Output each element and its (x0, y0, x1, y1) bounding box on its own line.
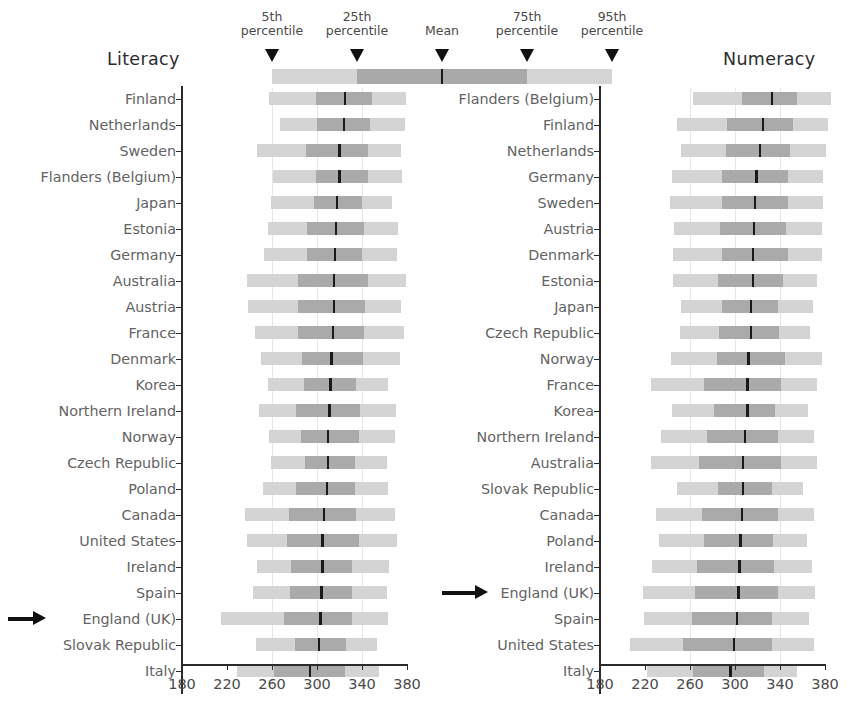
category-label: Finland (543, 118, 594, 132)
category-label: Austria (125, 300, 176, 314)
bar-mean-line (344, 92, 346, 105)
category-label: Japan (136, 196, 176, 210)
category-label: Ireland (545, 560, 594, 574)
category-label: Canada (122, 508, 176, 522)
bar-mean-line (332, 326, 334, 339)
bar-mean-line (742, 456, 744, 469)
value-axis-tick-label: 380 (803, 676, 847, 692)
category-label: United States (79, 534, 176, 548)
bar-range-dark (305, 456, 356, 469)
bar-mean-line (321, 560, 323, 573)
category-label: England (UK) (82, 612, 176, 626)
bar-range-dark (683, 638, 772, 651)
category-axis-tick (594, 567, 600, 568)
arrow-head-icon (475, 585, 488, 599)
category-axis-tick (176, 411, 182, 412)
bar-range-dark (704, 378, 782, 391)
category-label: Japan (554, 300, 594, 314)
legend-label-line1: 75th (481, 10, 573, 24)
bar-mean-line (752, 274, 754, 287)
bar-range-dark (316, 170, 368, 183)
bar-range-dark (298, 300, 366, 313)
category-axis-tick (176, 437, 182, 438)
category-axis-tick (594, 359, 600, 360)
legend-label-line2: percentile (311, 24, 403, 38)
bar-mean-line (750, 326, 752, 339)
legend-arrow-down-icon (605, 49, 619, 62)
legend-mean-line (441, 69, 443, 84)
bar-range-dark (284, 612, 352, 625)
bar-range-dark (718, 274, 783, 287)
value-axis-line (599, 664, 826, 666)
bar-range-dark (306, 144, 368, 157)
category-axis-tick (176, 541, 182, 542)
value-axis-tick (272, 664, 273, 670)
bar-mean-line (336, 196, 338, 209)
value-axis-tick-label: 380 (385, 676, 429, 692)
category-axis-tick (176, 99, 182, 100)
legend-label-line2: percentile (226, 24, 318, 38)
bar-mean-line (323, 508, 325, 521)
category-label: Sweden (538, 196, 595, 210)
bar-mean-line (746, 404, 748, 417)
bar-mean-line (318, 638, 320, 651)
category-label: Poland (546, 534, 594, 548)
category-axis-tick (176, 645, 182, 646)
bar-mean-line (327, 430, 329, 443)
legend-label-line1: 5th (226, 10, 318, 24)
category-label: Finland (125, 92, 176, 106)
bar-mean-line (737, 586, 739, 599)
category-label: Germany (528, 170, 594, 184)
value-axis-line (181, 664, 408, 666)
category-axis-tick (176, 619, 182, 620)
value-axis-tick (600, 664, 601, 670)
category-label: Germany (110, 248, 176, 262)
bar-mean-line (754, 196, 756, 209)
category-label: Poland (128, 482, 176, 496)
highlight-pointer-arrow (442, 588, 488, 597)
bar-mean-line (738, 560, 740, 573)
value-axis-tick (645, 664, 646, 670)
category-label: Northern Ireland (477, 430, 594, 444)
category-label: Czech Republic (485, 326, 594, 340)
bar-range-dark (695, 586, 778, 599)
category-label: Spain (136, 586, 176, 600)
category-label: Estonia (123, 222, 176, 236)
category-label: Netherlands (507, 144, 594, 158)
bar-mean-line (736, 612, 738, 625)
bar-mean-line (750, 300, 752, 313)
value-axis-tick-label: 300 (713, 676, 757, 692)
bar-range-dark (692, 612, 772, 625)
bar-range-dark (301, 430, 358, 443)
arrow-shaft (442, 591, 476, 595)
bar-mean-line (739, 534, 741, 547)
legend-label-line2: percentile (481, 24, 573, 38)
legend-label-line2: percentile (566, 24, 658, 38)
legend-label: 5thpercentile (226, 10, 318, 38)
panel-title-literacy: Literacy (107, 49, 180, 69)
value-axis-tick-label: 260 (668, 676, 712, 692)
legend-range-bar (272, 69, 612, 84)
category-axis-tick (176, 281, 182, 282)
bar-range-dark (302, 352, 363, 365)
category-axis-tick (594, 151, 600, 152)
category-axis-tick (594, 255, 600, 256)
category-label: Australia (113, 274, 176, 288)
category-axis-tick (176, 567, 182, 568)
category-label: Canada (540, 508, 594, 522)
bar-range-dark (697, 560, 775, 573)
value-axis-tick (825, 664, 826, 670)
value-axis-tick (317, 664, 318, 670)
category-axis-tick (594, 125, 600, 126)
category-axis-tick (176, 489, 182, 490)
legend-label-line1: 95th (566, 10, 658, 24)
value-axis-tick (780, 664, 781, 670)
legend-arrow-down-icon (265, 49, 279, 62)
bar-mean-line (328, 404, 330, 417)
category-axis-tick (594, 463, 600, 464)
bar-mean-line (762, 118, 764, 131)
category-axis-tick (594, 489, 600, 490)
value-axis-tick-label: 180 (578, 676, 622, 692)
bar-range-dark (718, 482, 772, 495)
category-axis-tick (594, 645, 600, 646)
